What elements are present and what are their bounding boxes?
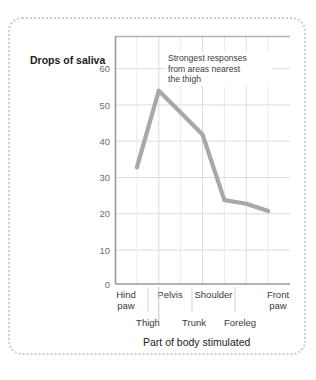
annotation-line-1: Strongest responses xyxy=(168,53,247,63)
y-axis-label: Drops of saliva xyxy=(30,54,105,66)
x-tick-pelvis: Pelvis xyxy=(157,289,183,300)
y-tick-50: 50 xyxy=(99,100,110,111)
annotation-line-2: from areas nearest xyxy=(168,64,241,74)
x-axis-tick-labels-lower: Thigh Trunk Foreleg xyxy=(136,317,256,328)
x-tick-front-paw-l1: Front xyxy=(267,289,290,300)
annotation-strongest-responses: Strongest responses from areas nearest t… xyxy=(166,52,272,86)
x-tick-shoulder: Shoulder xyxy=(194,289,232,300)
annotation-line-3: the thigh xyxy=(168,74,201,84)
x-tick-front-paw-l2: paw xyxy=(269,300,287,311)
y-tick-0: 0 xyxy=(105,279,110,290)
x-tick-trunk: Trunk xyxy=(182,317,206,328)
x-tick-hind-paw-l2: paw xyxy=(117,300,135,311)
y-axis-tick-labels: 60 50 40 30 20 10 0 xyxy=(99,63,110,289)
x-axis-tick-labels-upper: Hind paw Pelvis Shoulder Front paw xyxy=(116,289,289,311)
x-axis-title: Part of body stimulated xyxy=(143,336,251,348)
x-tick-thigh: Thigh xyxy=(136,317,160,328)
chart-canvas: 60 50 40 30 20 10 0 Drops of saliva Stro… xyxy=(0,0,316,380)
x-tick-hind-paw-l1: Hind xyxy=(116,289,136,300)
y-tick-30: 30 xyxy=(99,172,110,183)
x-tick-foreleg: Foreleg xyxy=(224,317,256,328)
y-tick-40: 40 xyxy=(99,136,110,147)
saliva-response-line-chart: 60 50 40 30 20 10 0 Drops of saliva Stro… xyxy=(0,0,316,380)
y-tick-10: 10 xyxy=(99,245,110,256)
y-tick-20: 20 xyxy=(99,208,110,219)
